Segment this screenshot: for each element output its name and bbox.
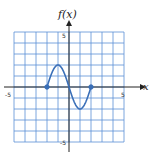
y-tick-max: 5 xyxy=(62,32,66,39)
y-axis-label: f(x) xyxy=(57,8,77,21)
y-tick-min: -5 xyxy=(60,139,66,146)
x-axis-label: x xyxy=(143,81,149,92)
x-tick-min: -5 xyxy=(5,91,11,98)
x-tick-max: 5 xyxy=(121,91,125,98)
endpoint-dot xyxy=(45,85,49,89)
function-graph: f(x) x -5 5 5 -5 xyxy=(0,0,158,157)
endpoint-dot xyxy=(89,85,93,89)
